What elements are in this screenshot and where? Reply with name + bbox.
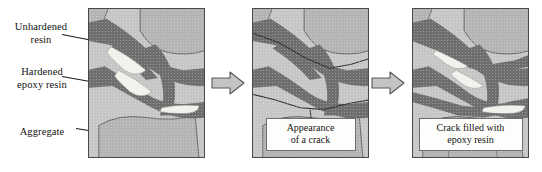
flow-arrow-1 bbox=[211, 70, 245, 96]
panel-caption-appearance-of-a-crack: Appearance of a crack bbox=[266, 118, 356, 151]
legend-label-aggregate: Aggregate bbox=[6, 126, 78, 139]
panel-caption-crack-filled-with-epoxy-resin: Crack filled with epoxy resin bbox=[419, 118, 523, 151]
right-arrow-icon bbox=[211, 70, 245, 96]
aggregate-block-bottom bbox=[99, 116, 199, 157]
panel-healed: Crack filled with epoxy resin bbox=[412, 8, 529, 158]
right-arrow-icon bbox=[371, 70, 405, 96]
figure-crack-repair-sequence: Unhardened resin Hardened epoxy resin Ag… bbox=[0, 0, 542, 172]
panel-intact-artwork bbox=[89, 9, 204, 157]
panel-intact bbox=[88, 8, 205, 158]
flow-arrow-2 bbox=[371, 70, 405, 96]
panel-cracked: Appearance of a crack bbox=[252, 8, 369, 158]
